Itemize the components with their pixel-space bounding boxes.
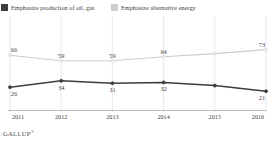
data-value-label: 66 <box>11 46 17 53</box>
legend-label-oil-gas: Emphasize production of oil, gas <box>11 4 95 11</box>
data-value-label: 31 <box>109 86 115 93</box>
plot-area: 66595964732634313221 <box>0 16 274 112</box>
legend-item-oil-gas: Emphasize production of oil, gas <box>1 1 95 14</box>
x-axis-tick-label: 2014 <box>157 113 169 121</box>
data-value-label: 59 <box>109 52 115 59</box>
x-axis-tick-label: 2015 <box>209 113 221 121</box>
x-axis-line <box>8 110 266 111</box>
data-point-marker <box>214 52 217 55</box>
data-value-label: 34 <box>58 84 64 91</box>
legend-label-alternative-energy: Emphasize alternative energy <box>121 4 196 11</box>
data-value-label: 26 <box>11 90 17 97</box>
legend-swatch-oil-gas <box>1 4 8 11</box>
legend-swatch-alternative-energy <box>111 4 118 11</box>
data-value-label: 59 <box>58 52 64 59</box>
registered-mark-icon: ® <box>31 129 34 134</box>
chart-canvas <box>0 16 274 112</box>
source-attribution: GALLUP® <box>3 129 34 137</box>
data-value-label: 32 <box>160 85 166 92</box>
data-point-marker <box>265 90 268 93</box>
data-point-marker <box>265 48 268 51</box>
x-axis-tick-label: 2011 <box>12 113 24 121</box>
data-point-marker <box>162 81 165 84</box>
data-point-marker <box>60 60 63 63</box>
data-point-marker <box>9 54 12 57</box>
series-line <box>10 81 266 91</box>
data-point-marker <box>111 82 114 85</box>
gallup-energy-priority-chart: Emphasize production of oil, gas Emphasi… <box>0 0 274 147</box>
data-point-marker <box>9 86 12 89</box>
x-axis-tick-label: 2016 <box>252 113 264 121</box>
source-name: GALLUP <box>3 130 31 137</box>
series-layer <box>9 48 268 92</box>
data-point-marker <box>162 56 165 59</box>
gridlines <box>10 16 266 112</box>
legend-item-alternative-energy: Emphasize alternative energy <box>111 1 196 14</box>
data-value-label: 64 <box>160 48 166 55</box>
x-axis: 201120122013201420152016 <box>0 110 274 124</box>
data-value-label: 73 <box>259 41 265 48</box>
chart-legend: Emphasize production of oil, gas Emphasi… <box>0 1 274 15</box>
data-value-label: 21 <box>259 94 265 101</box>
series-line <box>10 50 266 61</box>
x-axis-tick-label: 2012 <box>55 113 67 121</box>
data-point-marker <box>111 60 114 63</box>
x-axis-tick-label: 2013 <box>106 113 118 121</box>
data-point-marker <box>60 79 63 82</box>
data-point-marker <box>213 84 216 87</box>
